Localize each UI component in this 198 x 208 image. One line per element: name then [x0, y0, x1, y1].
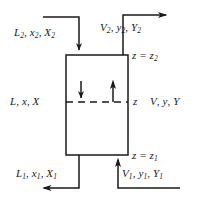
column-vessel: [66, 55, 128, 155]
mass-transfer-column-diagram: L2, x2, X2 V2, y2, Y2 z = z2 L, x, X z V…: [0, 0, 198, 208]
z-bottom-sub: 1: [154, 154, 158, 163]
vapor-mid-var3: Y: [173, 95, 179, 107]
label-vapor-mid: V, y, Y: [150, 96, 179, 107]
vapor-mid-var1: V: [150, 95, 157, 107]
label-vapor-inlet: V1, y1, Y1: [122, 168, 163, 179]
liquid-outlet-sub3: 1: [53, 172, 57, 181]
z-top-text: z = z: [132, 49, 154, 61]
label-liquid-mid: L, x, X: [10, 96, 39, 107]
vapor-outlet-sub1: 2: [107, 26, 111, 35]
vapor-inlet-sub1: 1: [129, 172, 133, 181]
liquid-outlet-sub1: 1: [22, 172, 26, 181]
z-top-sub: 2: [154, 54, 158, 63]
liquid-outlet-sub2: 1: [37, 172, 41, 181]
label-z-mid: z: [133, 96, 137, 107]
vapor-outlet-sub2: 2: [121, 26, 125, 35]
z-bottom-text: z = z: [132, 149, 154, 161]
liquid-inlet-sub2: 2: [35, 31, 39, 40]
label-z-bottom: z = z1: [132, 150, 158, 161]
liquid-mid-var3: X: [33, 95, 40, 107]
label-vapor-outlet: V2, y2, Y2: [100, 22, 141, 33]
vapor-inlet-sub3: 1: [159, 172, 163, 181]
label-z-top: z = z2: [132, 50, 158, 61]
vapor-outlet-var1: V: [100, 21, 107, 33]
vapor-inlet-var1: V: [122, 167, 129, 179]
z-mid-text: z: [133, 95, 137, 107]
label-liquid-outlet: L1, x1, X1: [16, 168, 57, 179]
label-liquid-inlet: L2, x2, X2: [14, 27, 55, 38]
liquid-inlet-sub1: 2: [20, 31, 24, 40]
vapor-outlet-sub3: 2: [137, 26, 141, 35]
liquid-inlet-sub3: 2: [51, 31, 55, 40]
vapor-inlet-sub2: 1: [143, 172, 147, 181]
